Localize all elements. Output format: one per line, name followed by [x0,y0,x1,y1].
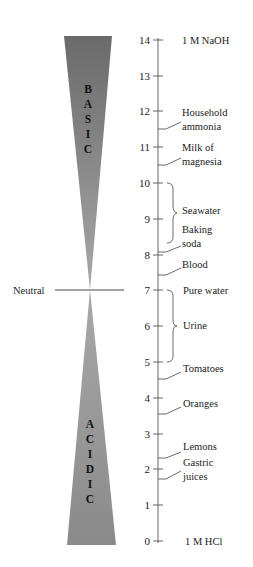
svg-text:D: D [86,463,94,475]
svg-text:B: B [84,83,92,95]
neutral-label: Neutral [13,285,45,296]
label-pure-water: Pure water [183,285,229,296]
svg-text:magnesia: magnesia [182,156,222,167]
label-hcl: 1 M HCl [185,536,222,547]
label-gastric-juices: Gastric [183,457,214,468]
svg-text:12: 12 [139,105,150,117]
svg-text:9: 9 [145,213,151,225]
svg-text:juices: juices [182,471,208,482]
svg-text:1: 1 [145,499,151,511]
axis-tick-labels: 0 1 2 3 4 5 6 7 8 9 10 11 12 13 14 [139,34,151,547]
label-seawater: Seawater [182,205,221,216]
svg-text:soda: soda [182,238,202,249]
svg-text:3: 3 [145,428,151,440]
svg-text:13: 13 [139,70,151,82]
svg-text:I: I [88,448,93,460]
basic-wedge [64,36,112,290]
label-milk-of-magnesia: Milk of [182,142,214,153]
svg-text:4: 4 [145,392,151,404]
svg-text:10: 10 [139,177,151,189]
svg-text:I: I [86,128,91,140]
svg-text:0: 0 [145,535,151,547]
svg-text:5: 5 [145,356,151,368]
svg-text:A: A [84,98,93,110]
svg-text:C: C [86,433,94,445]
label-tomatoes: Tomatoes [183,363,224,374]
label-urine: Urine [183,320,207,331]
svg-text:C: C [86,493,94,505]
svg-text:6: 6 [145,320,151,332]
label-blood: Blood [182,259,208,270]
ph-scale-diagram: B A S I C A C I D I C Neutral 0 1 [0,0,253,567]
svg-text:2: 2 [145,463,151,475]
svg-text:14: 14 [139,34,151,46]
svg-text:A: A [86,418,95,430]
label-ammonia: Household [182,107,228,118]
label-oranges: Oranges [183,398,218,409]
substance-labels: 1 M NaOH Household ammonia Milk of magne… [182,35,230,547]
label-baking-soda: Baking [182,224,213,235]
svg-text:I: I [88,478,93,490]
label-lemons: Lemons [183,441,217,452]
svg-text:7: 7 [145,284,151,296]
svg-text:S: S [85,113,91,125]
svg-text:C: C [84,143,92,155]
label-naoh: 1 M NaOH [182,35,230,46]
svg-text:8: 8 [145,249,151,261]
svg-text:ammonia: ammonia [182,121,221,132]
svg-text:11: 11 [139,141,150,153]
leader-lines [158,122,181,479]
